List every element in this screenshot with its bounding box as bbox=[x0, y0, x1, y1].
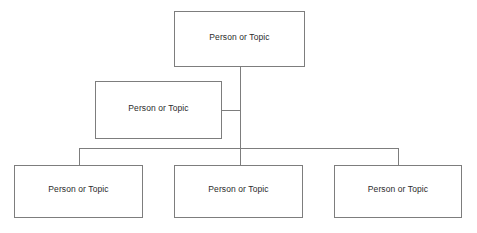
org-chart-canvas: Person or Topic Person or Topic Person o… bbox=[0, 0, 477, 233]
connector-horizontal-bus bbox=[79, 148, 399, 149]
node-child-3-label: Person or Topic bbox=[368, 185, 428, 194]
node-root-label: Person or Topic bbox=[209, 33, 269, 42]
node-child-2[interactable]: Person or Topic bbox=[174, 165, 303, 218]
node-assistant[interactable]: Person or Topic bbox=[95, 81, 222, 139]
node-root[interactable]: Person or Topic bbox=[174, 11, 305, 67]
connector-bus-to-child-1 bbox=[79, 148, 80, 165]
connector-root-to-bus bbox=[240, 67, 241, 165]
connector-assistant-to-trunk bbox=[222, 110, 241, 111]
node-assistant-label: Person or Topic bbox=[128, 104, 188, 113]
node-child-1[interactable]: Person or Topic bbox=[14, 165, 143, 218]
node-child-3[interactable]: Person or Topic bbox=[334, 165, 462, 218]
node-child-2-label: Person or Topic bbox=[208, 185, 268, 194]
connector-bus-to-child-3 bbox=[398, 148, 399, 165]
node-child-1-label: Person or Topic bbox=[48, 185, 108, 194]
